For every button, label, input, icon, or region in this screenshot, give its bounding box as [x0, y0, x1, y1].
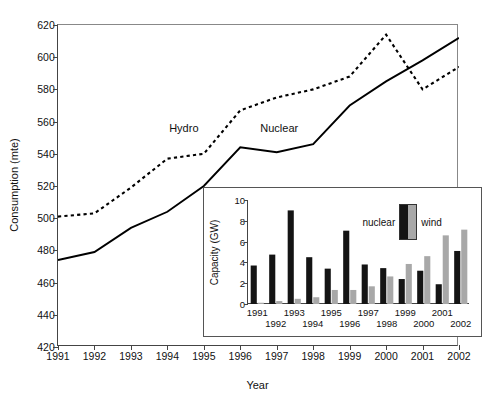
inset-bar-wind-1996: [350, 290, 356, 304]
inset-x-tick-label: 1992: [265, 319, 286, 328]
inset-bar-wind-2002: [461, 230, 467, 304]
inset-bar-nuclear-2002: [454, 251, 460, 304]
inset-x-tick-label: 1994: [302, 319, 323, 328]
main-y-tick-mark: [53, 57, 58, 58]
main-x-tick-label: 1993: [119, 351, 142, 361]
main-y-tick-mark: [53, 315, 58, 316]
inset-legend-nuclear-label: nuclear: [362, 217, 395, 228]
inset-bar-wind-1991: [258, 303, 264, 304]
inset-bar-wind-1995: [332, 290, 338, 304]
inset-x-tick-label: 2000: [413, 319, 434, 328]
main-x-tick-mark: [131, 345, 132, 350]
main-y-tick-mark: [53, 218, 58, 219]
inset-bar-nuclear-1992: [269, 255, 275, 304]
main-y-tick-mark: [53, 250, 58, 251]
inset-bar-nuclear-1999: [399, 279, 405, 304]
inset-bar-wind-1992: [276, 301, 282, 304]
main-y-tick-mark: [53, 186, 58, 187]
inset-x-tick-label: 1991: [247, 308, 268, 317]
main-x-tick-label: 1991: [46, 351, 69, 361]
main-x-tick-label: 1995: [192, 351, 215, 361]
inset-bar-nuclear-1991: [251, 266, 257, 304]
main-y-tick-mark: [53, 122, 58, 123]
inset-legend-wind-label: wind: [421, 217, 442, 228]
legend-swatch-wind: [408, 205, 416, 239]
inset-bar-wind-1999: [406, 264, 412, 304]
inset-bar-wind-1994: [313, 297, 319, 304]
nuclear-series-label: Nuclear: [260, 122, 298, 134]
main-x-axis-label: Year: [57, 379, 458, 391]
main-x-tick-label: 1997: [265, 351, 288, 361]
main-x-tick-mark: [313, 345, 314, 350]
main-x-tick-mark: [204, 345, 205, 350]
main-y-axis-label: Consumption (mte): [7, 24, 21, 346]
main-x-tick-mark: [386, 345, 387, 350]
hydro-series-label: Hydro: [169, 122, 198, 134]
inset-bar-wind-1998: [387, 276, 393, 304]
inset-legend: nuclear wind: [362, 204, 441, 240]
legend-swatch-nuclear: [400, 205, 408, 239]
inset-y-axis-label-text: Capacity (GW): [209, 219, 220, 285]
main-y-axis-label-text: Consumption (mte): [8, 138, 20, 232]
main-x-tick-mark: [277, 345, 278, 350]
inset-y-tick-mark: [244, 283, 248, 284]
inset-y-tick-mark: [244, 221, 248, 222]
inset-bar-nuclear-1997: [362, 264, 368, 304]
main-y-tick-mark: [53, 283, 58, 284]
inset-legend-swatch: [399, 204, 417, 240]
main-y-tick-mark: [53, 154, 58, 155]
inset-bar-nuclear-1995: [325, 269, 331, 304]
inset-chart-panel: Capacity (GW) 0246810 199119921993199419…: [203, 187, 482, 337]
main-x-tick-label: 1992: [83, 351, 106, 361]
main-x-tick-label: 1996: [229, 351, 252, 361]
inset-bar-nuclear-2000: [417, 271, 423, 304]
figure-container: Consumption (mte) 4204404604805005205405…: [0, 0, 494, 406]
main-x-tick-label: 1994: [156, 351, 179, 361]
inset-y-tick-mark: [244, 200, 248, 201]
inset-bar-wind-1997: [369, 286, 375, 304]
inset-bar-nuclear-1996: [343, 231, 349, 304]
main-x-tick-mark: [240, 345, 241, 350]
inset-y-tick-mark: [244, 262, 248, 263]
inset-bar-nuclear-2001: [436, 284, 442, 304]
inset-bar-nuclear-1993: [288, 210, 294, 304]
main-x-tick-mark: [58, 345, 59, 350]
main-y-tick-mark: [53, 89, 58, 90]
inset-x-tick-label: 1996: [339, 319, 360, 328]
inset-x-tick-label: 1998: [376, 319, 397, 328]
main-x-tick-label: 2000: [374, 351, 397, 361]
main-x-tick-label: 2001: [411, 351, 434, 361]
inset-x-tick-label: 1993: [284, 308, 305, 317]
inset-bar-nuclear-1994: [306, 257, 312, 304]
main-x-tick-mark: [350, 345, 351, 350]
inset-x-tick-label: 2001: [432, 308, 453, 317]
inset-x-tick-label: 1995: [321, 308, 342, 317]
main-x-tick-mark: [167, 345, 168, 350]
inset-y-tick-mark: [244, 242, 248, 243]
inset-x-tick-label: 1997: [358, 308, 379, 317]
main-y-tick-mark: [53, 25, 58, 26]
inset-bar-nuclear-1998: [380, 268, 386, 304]
main-x-tick-label: 1999: [338, 351, 361, 361]
inset-y-axis-label: Capacity (GW): [208, 200, 221, 304]
inset-x-tick-label: 1999: [395, 308, 416, 317]
main-x-tick-mark: [94, 345, 95, 350]
inset-x-tick-label: 2002: [450, 319, 471, 328]
main-x-tick-label: 1998: [301, 351, 324, 361]
inset-bar-wind-2000: [424, 256, 430, 304]
inset-bar-wind-1993: [295, 299, 301, 304]
main-x-tick-mark: [423, 345, 424, 350]
main-x-tick-label: 2002: [447, 351, 470, 361]
inset-bar-wind-2001: [443, 235, 449, 304]
inset-y-tick-mark: [244, 304, 248, 305]
main-x-tick-mark: [459, 345, 460, 350]
